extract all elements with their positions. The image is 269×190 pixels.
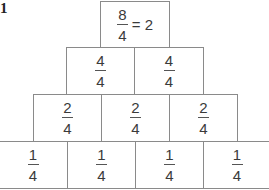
fraction: 1 4 bbox=[232, 147, 243, 183]
fraction: 2 4 bbox=[198, 100, 209, 136]
denominator: 4 bbox=[28, 168, 38, 183]
numerator: 2 bbox=[198, 100, 208, 115]
fraction-bar bbox=[130, 117, 141, 118]
denominator: 4 bbox=[164, 74, 174, 89]
numerator: 1 bbox=[28, 147, 38, 162]
pyramid-row4-cell: 1 4 bbox=[135, 141, 204, 189]
denominator: 4 bbox=[96, 168, 106, 183]
fraction-bar bbox=[95, 70, 106, 71]
fraction-bar bbox=[117, 24, 128, 25]
fraction: 8 4 bbox=[117, 7, 128, 43]
fraction-bar bbox=[28, 164, 39, 165]
denominator: 4 bbox=[117, 28, 127, 43]
numerator: 8 bbox=[117, 7, 127, 22]
fraction: 1 4 bbox=[28, 147, 39, 183]
denominator: 4 bbox=[198, 121, 208, 136]
numerator: 1 bbox=[96, 147, 106, 162]
pyramid-row3-cell: 2 4 bbox=[33, 94, 102, 142]
pyramid-row3-cell: 2 4 bbox=[101, 94, 170, 142]
numerator: 2 bbox=[130, 100, 140, 115]
denominator: 4 bbox=[95, 74, 105, 89]
fraction-bar bbox=[198, 117, 209, 118]
pyramid-row4-cell: 1 4 bbox=[203, 141, 269, 189]
fraction: 4 4 bbox=[164, 53, 175, 89]
numerator: 1 bbox=[232, 147, 242, 162]
fraction-bar bbox=[96, 164, 107, 165]
numerator: 4 bbox=[164, 53, 174, 68]
fraction: 2 4 bbox=[62, 100, 73, 136]
fraction: 1 4 bbox=[164, 147, 175, 183]
denominator: 4 bbox=[62, 121, 72, 136]
numerator: 1 bbox=[164, 147, 174, 162]
denominator: 4 bbox=[164, 168, 174, 183]
fraction: 4 4 bbox=[95, 53, 106, 89]
denominator: 4 bbox=[130, 121, 140, 136]
pyramid-row2-cell: 4 4 bbox=[134, 47, 204, 95]
pyramid-top-box: 8 4 = 2 bbox=[100, 1, 170, 48]
fraction-bar bbox=[164, 164, 175, 165]
numerator: 4 bbox=[95, 53, 105, 68]
fraction-bar bbox=[164, 70, 175, 71]
fraction: 2 4 bbox=[130, 100, 141, 136]
pyramid-row2-cell: 4 4 bbox=[66, 47, 135, 95]
problem-number: 1 bbox=[0, 1, 8, 16]
pyramid-row4-cell: 1 4 bbox=[0, 141, 68, 189]
fraction-bar bbox=[232, 164, 243, 165]
pyramid-row3-cell: 2 4 bbox=[169, 94, 238, 142]
denominator: 4 bbox=[232, 168, 242, 183]
numerator: 2 bbox=[62, 100, 72, 115]
pyramid-row4-cell: 1 4 bbox=[67, 141, 136, 189]
fraction: 1 4 bbox=[96, 147, 107, 183]
equation-result: = 2 bbox=[132, 16, 153, 33]
fraction-bar bbox=[62, 117, 73, 118]
